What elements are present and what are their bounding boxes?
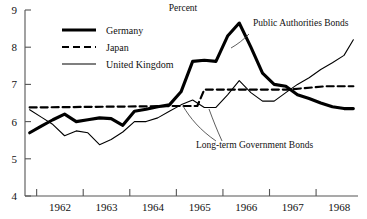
legend-label-united-kingdom: United Kingdom [106, 59, 174, 70]
legend-label-germany: Germany [106, 25, 143, 36]
chart-annotation: Long-term Government Bonds [196, 140, 313, 150]
x-tick-label: 1964 [142, 201, 165, 213]
y-tick-label: 9 [12, 4, 18, 16]
chart-title: Percent [169, 3, 198, 13]
y-tick-group: 456789 [12, 4, 32, 202]
x-tick-label: 1965 [189, 201, 212, 213]
x-tick-label: 1962 [49, 201, 71, 213]
annotation-leaders [183, 34, 249, 141]
chart-container: Percent 456789 1962196319641965196619671… [0, 0, 367, 219]
x-tick-label: 1966 [235, 201, 258, 213]
axis-group [25, 10, 358, 196]
y-tick-label: 6 [12, 116, 18, 128]
chart-legend: Germany Japan United Kingdom [62, 25, 174, 70]
y-tick-label: 8 [12, 41, 18, 53]
x-tick-label: 1968 [328, 201, 351, 213]
leader-line-long-term-a [209, 109, 222, 141]
series-group [30, 23, 354, 145]
chart-annotation: Public Authorities Bonds [253, 18, 349, 28]
x-tick-group: 1962196319641965196619671968 [37, 189, 351, 213]
series-line-united-kingdom [30, 40, 354, 145]
line-chart: Percent 456789 1962196319641965196619671… [0, 0, 367, 219]
series-line-germany [30, 23, 354, 133]
y-tick-label: 4 [12, 190, 18, 202]
y-tick-label: 5 [12, 153, 18, 165]
y-tick-label: 7 [12, 78, 18, 90]
x-tick-label: 1967 [282, 201, 305, 213]
leader-line-long-term-b [183, 106, 216, 141]
x-tick-label: 1963 [96, 201, 119, 213]
legend-label-japan: Japan [106, 42, 129, 53]
